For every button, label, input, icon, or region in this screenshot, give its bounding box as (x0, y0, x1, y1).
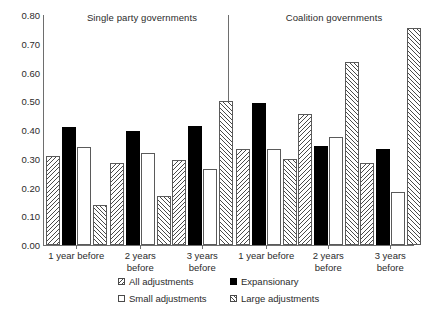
bar-large (93, 205, 107, 245)
legend-swatch-expansionary-icon (230, 278, 237, 285)
legend-item-expansionary: Expansionary (230, 276, 299, 287)
x-category-label: 1 year before (40, 250, 112, 262)
bar-group (46, 15, 107, 245)
bar-expansionary (62, 127, 76, 245)
legend-swatch-large-adjustments-icon (230, 295, 237, 302)
bar-expansionary (126, 131, 140, 245)
bar-small (77, 147, 91, 245)
bar-large (407, 28, 421, 245)
bar-large (345, 62, 359, 245)
bar-chart: Single party governments Coalition gover… (0, 0, 429, 317)
bar-small (203, 169, 217, 245)
y-tick-label: 0.40 (4, 125, 40, 136)
x-category-label: 3 years before (354, 250, 426, 274)
bar-group (110, 15, 171, 245)
x-category-label: 3 years before (166, 250, 238, 274)
y-tick-label: 0.10 (4, 211, 40, 222)
legend-swatch-small-adjustments-icon (118, 295, 125, 302)
bar-large (157, 196, 171, 245)
bar-small (329, 137, 343, 245)
y-axis-labels: 0.800.700.600.500.400.300.200.100.00 (0, 0, 40, 317)
bar-all (172, 160, 186, 245)
y-tick-label: 0.60 (4, 67, 40, 78)
bar-expansionary (314, 146, 328, 245)
plot-area (43, 15, 414, 245)
bar-all (360, 163, 374, 245)
bar-expansionary (376, 149, 390, 245)
legend-label-small-adjustments: Small adjustments (129, 293, 207, 304)
x-tick (202, 245, 203, 249)
bar-group (360, 15, 421, 245)
legend-item-large-adjustments: Large adjustments (230, 293, 319, 304)
legend-swatch-all-adjustments-icon (118, 278, 125, 285)
x-tick (328, 245, 329, 249)
chart-legend: All adjustments Small adjustments Expans… (118, 276, 418, 310)
bar-expansionary (188, 126, 202, 245)
bar-small (391, 192, 405, 245)
bar-small (267, 149, 281, 245)
x-tick (390, 245, 391, 249)
y-tick-label: 0.80 (4, 10, 40, 21)
x-tick (266, 245, 267, 249)
bar-all (46, 156, 60, 245)
legend-label-all-adjustments: All adjustments (129, 276, 193, 287)
bar-all (236, 149, 250, 245)
y-tick-label: 0.20 (4, 182, 40, 193)
legend-label-expansionary: Expansionary (241, 276, 299, 287)
legend-item-all-adjustments: All adjustments (118, 276, 193, 287)
bar-group (298, 15, 359, 245)
y-tick-label: 0.00 (4, 240, 40, 251)
y-tick-label: 0.30 (4, 153, 40, 164)
x-tick (140, 245, 141, 249)
bar-all (110, 163, 124, 245)
y-tick-label: 0.70 (4, 38, 40, 49)
bar-all (298, 114, 312, 245)
legend-label-large-adjustments: Large adjustments (241, 293, 319, 304)
bar-large (219, 101, 233, 245)
bar-small (141, 153, 155, 245)
x-tick (76, 245, 77, 249)
bar-large (283, 159, 297, 245)
bar-group (172, 15, 233, 245)
bar-expansionary (252, 103, 266, 245)
legend-item-small-adjustments: Small adjustments (118, 293, 207, 304)
y-tick-label: 0.50 (4, 96, 40, 107)
bar-group (236, 15, 297, 245)
